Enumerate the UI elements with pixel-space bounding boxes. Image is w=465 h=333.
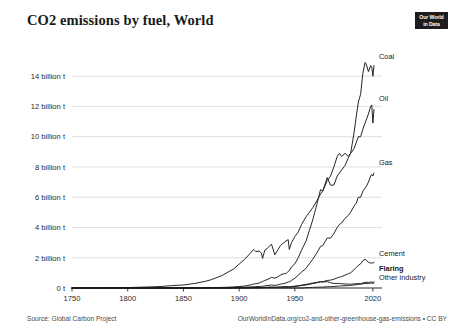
y-axis-tick-label: 8 billion t (35, 163, 66, 172)
series-line-oil[interactable] (72, 105, 374, 288)
chart-container: CO2 emissions by fuel, World Our World i… (0, 0, 465, 333)
x-axis-tick-label: 1900 (231, 294, 248, 303)
attribution-note[interactable]: OurWorldInData.org/co2-and-other-greenho… (238, 315, 447, 322)
series-label-flaring[interactable]: Flaring (379, 264, 404, 273)
y-axis-tick-label: 0 t (57, 284, 66, 293)
series-label-cement[interactable]: Cement (379, 249, 405, 258)
series-label-oil[interactable]: Oil (379, 94, 388, 103)
line-chart-plot: 0 t2 billion t4 billion t6 billion t8 bi… (0, 0, 465, 333)
x-axis-tick-label: 1850 (175, 294, 192, 303)
x-axis-tick-label: 1950 (286, 294, 303, 303)
y-axis-tick-label: 2 billion t (35, 254, 66, 263)
series-label-gas[interactable]: Gas (379, 158, 393, 167)
series-line-coal[interactable] (72, 63, 374, 288)
x-axis-tick-label: 1750 (64, 294, 81, 303)
series-label-coal[interactable]: Coal (379, 52, 395, 61)
series-line-gas[interactable] (72, 173, 374, 288)
x-axis-tick-label: 1800 (119, 294, 136, 303)
y-axis-tick-label: 10 billion t (31, 132, 66, 141)
y-axis-tick-label: 6 billion t (35, 193, 66, 202)
y-axis-tick-label: 14 billion t (31, 72, 66, 81)
y-axis-tick-label: 4 billion t (35, 223, 66, 232)
source-note: Source: Global Carbon Project (27, 315, 116, 322)
y-axis-tick-label: 12 billion t (31, 102, 66, 111)
series-line-cement[interactable] (72, 259, 374, 288)
x-axis-tick-label: 2020 (364, 294, 381, 303)
series-label-other-industry[interactable]: Other industry (379, 273, 426, 282)
